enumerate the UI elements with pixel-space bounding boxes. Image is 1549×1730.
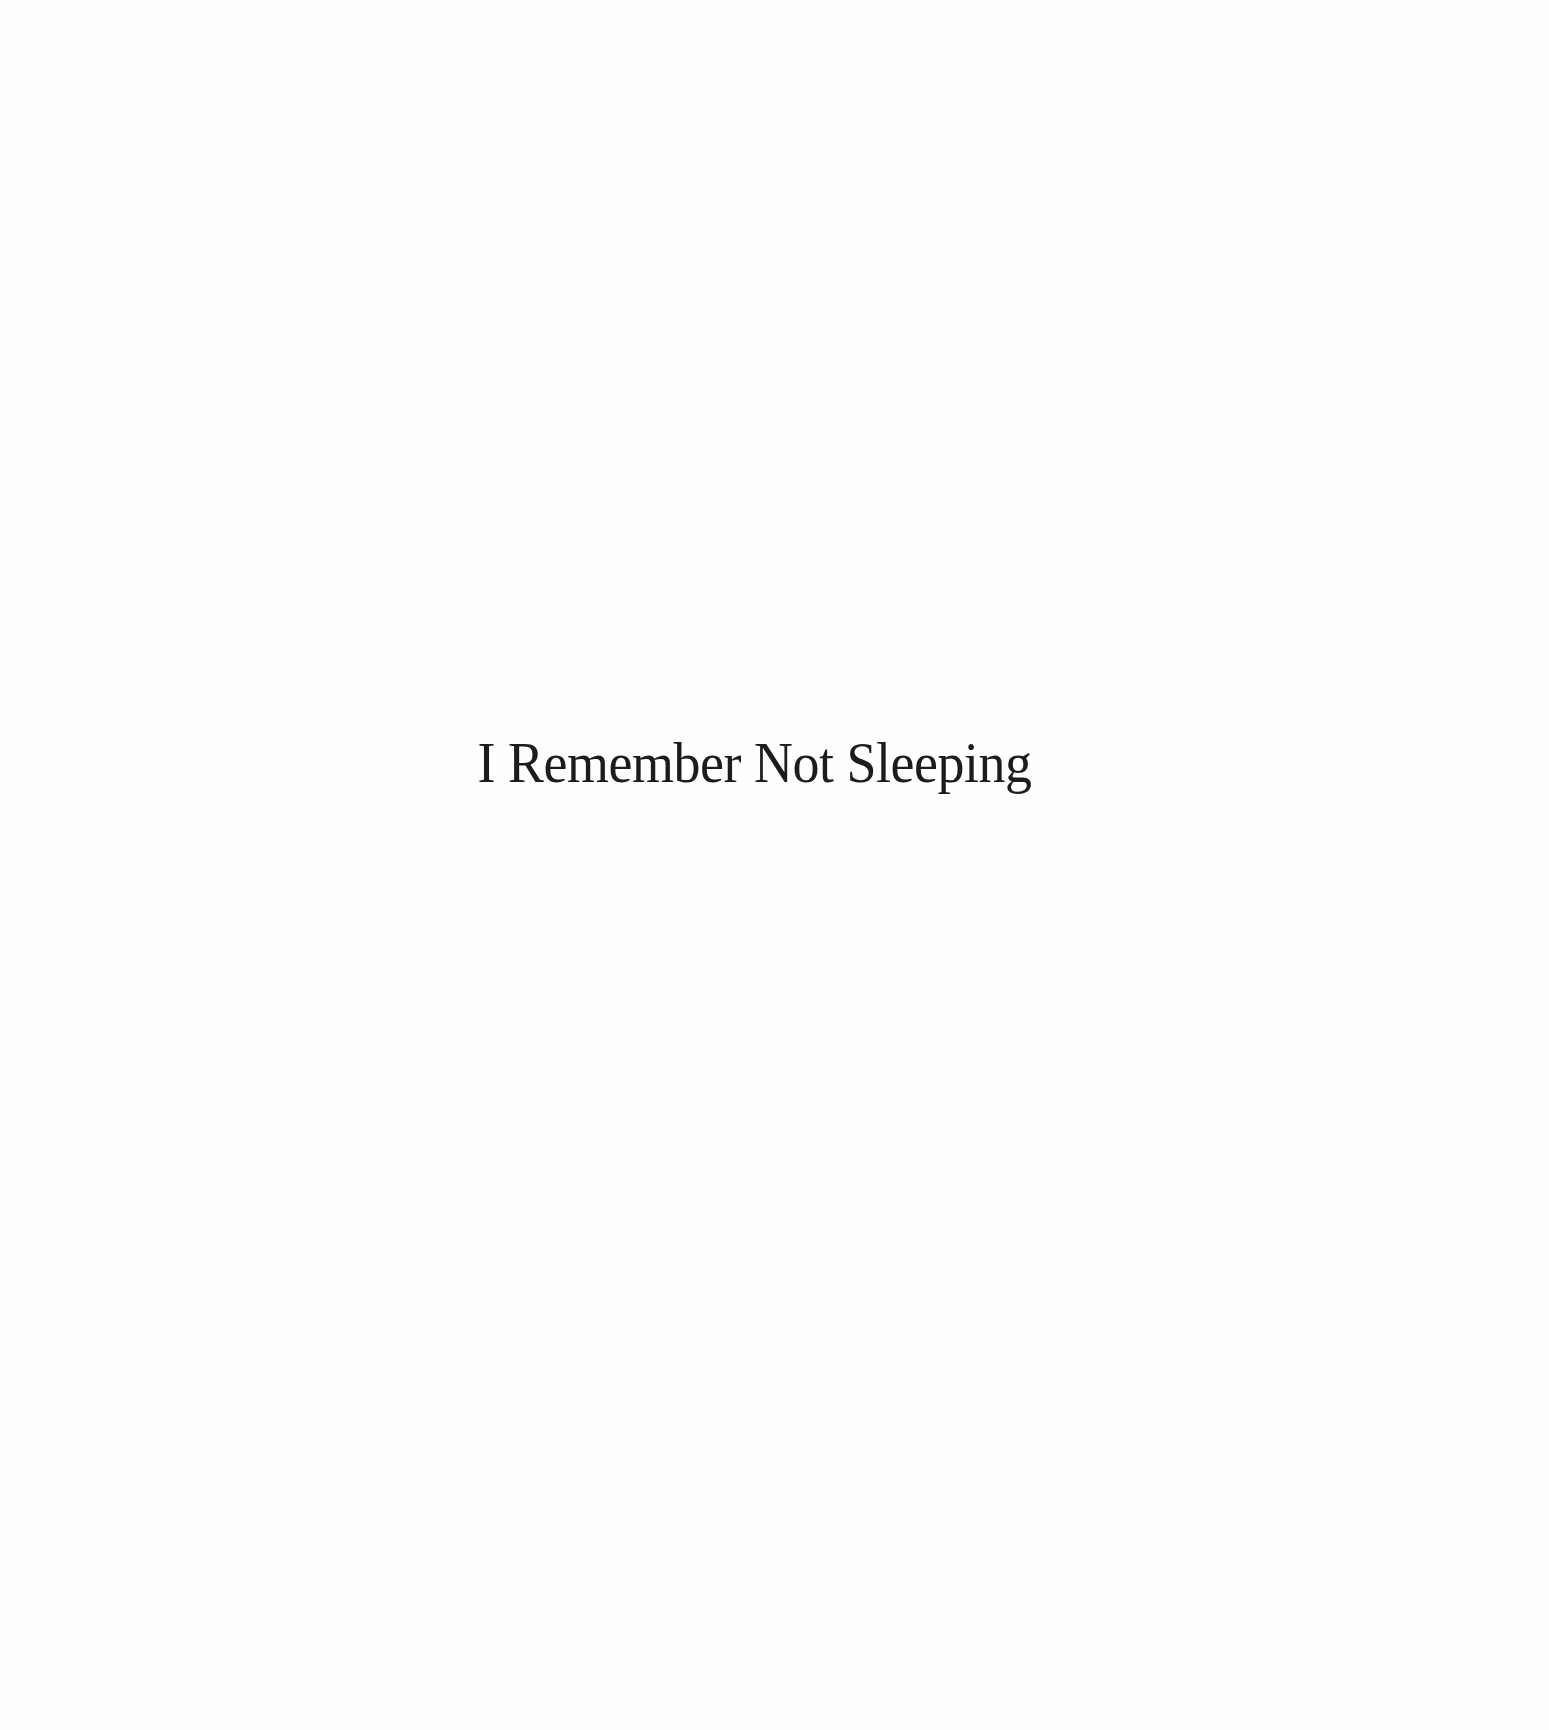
half-title: I Remember Not Sleeping [53,728,1456,798]
book-page: I Remember Not Sleeping [0,0,1549,1730]
